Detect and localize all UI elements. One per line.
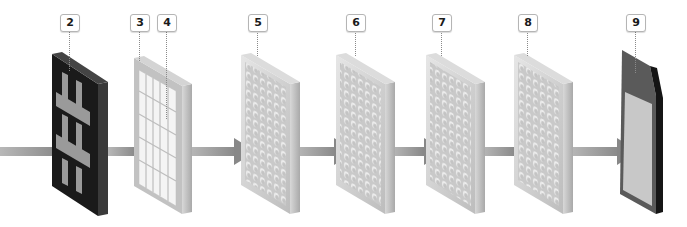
callout-7: 7	[432, 14, 452, 32]
callout-leader-3	[139, 31, 140, 61]
callout-leader-8	[527, 31, 528, 56]
callout-5: 5	[248, 14, 268, 32]
layer-7-panel	[426, 53, 485, 214]
diagram-graphics	[0, 0, 687, 227]
callout-6: 6	[346, 14, 366, 32]
layer-3-4-grid-panel	[134, 56, 192, 214]
layer-6-panel	[336, 53, 395, 214]
layer-2-dark-panel	[52, 52, 108, 216]
layer-9-screen	[620, 50, 663, 214]
callout-leader-5	[257, 31, 258, 56]
callout-2: 2	[60, 14, 80, 32]
layer-5-panel	[241, 53, 300, 214]
callout-3: 3	[130, 14, 150, 32]
callout-leader-7	[441, 31, 442, 56]
callout-8: 8	[518, 14, 538, 32]
callout-9: 9	[626, 14, 646, 32]
callout-leader-9	[635, 31, 636, 73]
callout-4: 4	[157, 14, 177, 32]
layer-stack-diagram: 2 3 4 5 6 7 8 9	[0, 0, 687, 227]
callout-leader-6	[355, 31, 356, 56]
callout-leader-2	[69, 31, 70, 71]
layer-8-panel	[514, 53, 573, 214]
callout-leader-4	[166, 31, 167, 119]
